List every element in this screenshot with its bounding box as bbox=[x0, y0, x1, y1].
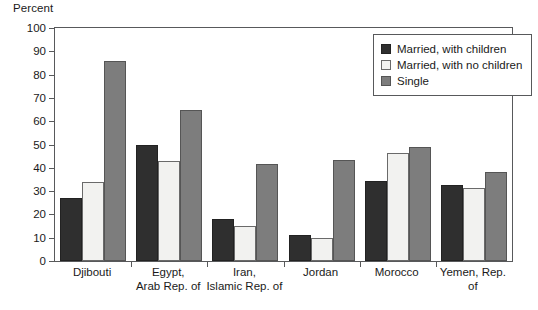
bar[interactable] bbox=[485, 172, 507, 261]
bar[interactable] bbox=[104, 61, 126, 261]
y-axis-tick-label: 40 bbox=[33, 162, 46, 174]
y-axis-tick-label: 90 bbox=[33, 45, 46, 57]
legend-label: Single bbox=[397, 75, 429, 87]
legend-swatch-icon bbox=[381, 76, 391, 86]
legend-swatch-icon bbox=[381, 44, 391, 54]
x-axis-label: Morocco bbox=[359, 266, 435, 280]
bar[interactable] bbox=[311, 238, 333, 261]
bar[interactable] bbox=[180, 110, 202, 261]
bar[interactable] bbox=[365, 181, 387, 261]
bar-chart: Percent 1009080706050403020100 Married, … bbox=[0, 0, 538, 310]
legend-item[interactable]: Married, with no children bbox=[381, 57, 522, 73]
legend-swatch-icon bbox=[381, 60, 391, 70]
y-axis-tick-label: 70 bbox=[33, 92, 46, 104]
y-axis-tick-label: 80 bbox=[33, 69, 46, 81]
x-axis-label: Yemen, Rep. of bbox=[435, 266, 511, 293]
x-axis-label: Egypt, Arab Rep. of bbox=[130, 266, 206, 293]
bar[interactable] bbox=[136, 145, 158, 262]
bar[interactable] bbox=[60, 198, 82, 261]
y-axis-tick-mark bbox=[49, 261, 55, 262]
chart-legend: Married, with childrenMarried, with no c… bbox=[373, 34, 532, 96]
bar[interactable] bbox=[212, 219, 234, 261]
x-axis-label: Iran, Islamic Rep. of bbox=[206, 266, 282, 293]
bar[interactable] bbox=[289, 235, 311, 261]
y-axis-tick-label: 0 bbox=[40, 255, 46, 267]
legend-item[interactable]: Married, with children bbox=[381, 41, 522, 57]
y-axis-tick-label: 50 bbox=[33, 139, 46, 151]
bar[interactable] bbox=[463, 188, 485, 261]
bar-group bbox=[284, 28, 360, 261]
x-axis-label: Jordan bbox=[283, 266, 359, 280]
bar[interactable] bbox=[82, 182, 104, 261]
y-axis-tick-label: 20 bbox=[33, 208, 46, 220]
y-axis-tick-label: 60 bbox=[33, 115, 46, 127]
bar[interactable] bbox=[158, 161, 180, 261]
y-axis-title: Percent bbox=[13, 2, 53, 14]
bar[interactable] bbox=[387, 153, 409, 261]
legend-item[interactable]: Single bbox=[381, 73, 522, 89]
legend-label: Married, with children bbox=[397, 43, 506, 55]
y-axis-tick-label: 30 bbox=[33, 185, 46, 197]
legend-label: Married, with no children bbox=[397, 59, 522, 71]
bar-group bbox=[207, 28, 283, 261]
y-axis-tick-label: 100 bbox=[27, 22, 46, 34]
y-axis-tick-label: 10 bbox=[33, 232, 46, 244]
bar[interactable] bbox=[409, 147, 431, 261]
bar[interactable] bbox=[333, 160, 355, 261]
bar[interactable] bbox=[256, 164, 278, 261]
bar[interactable] bbox=[234, 226, 256, 261]
bar-group bbox=[131, 28, 207, 261]
bar[interactable] bbox=[441, 185, 463, 261]
x-axis-label: Djibouti bbox=[54, 266, 130, 280]
bar-group bbox=[55, 28, 131, 261]
